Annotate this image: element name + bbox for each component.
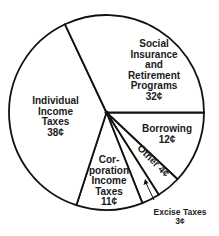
label-social-insurance: Social Insurance and Retirement Programs… (110, 39, 198, 102)
label-excise-taxes: Excise Taxes 3¢ (148, 208, 212, 226)
label-corporation-income-taxes: Cor- poration Income Taxes 11¢ (84, 155, 134, 208)
label-individual-income-taxes: Individual Income Taxes 38¢ (18, 96, 93, 138)
pie-center-dot (105, 111, 109, 115)
label-borrowing: Borrowing 12¢ (136, 124, 198, 145)
